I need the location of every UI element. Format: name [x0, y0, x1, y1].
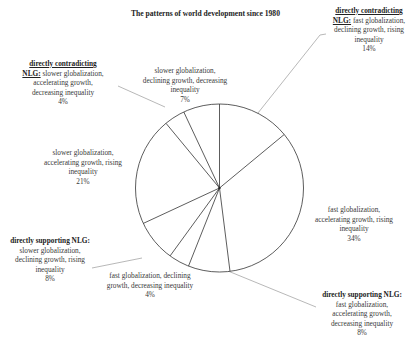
slice-percent: 8% [0, 274, 100, 284]
label-21-percent: slower globalization, accelerating growt… [28, 148, 138, 186]
slice-label-text: decreasing inequality [331, 319, 393, 328]
slice-label-text: inequality [339, 224, 368, 233]
label-8-percent-left: directly supporting NLG: slower globaliz… [0, 236, 100, 284]
annotation-heading: NLG: [22, 69, 40, 78]
slice-percent: 4% [10, 97, 116, 107]
label-14-percent: directly contradicting NLG: fast globali… [327, 6, 411, 54]
slice-label-text: accelerating growth, [332, 309, 392, 318]
slice-percent: 34% [298, 234, 410, 244]
slice-label-text: slower globalization, [42, 69, 103, 78]
slice-label-text: declining growth, rising [334, 25, 404, 34]
label-4-percent-bottom: fast globalization, declining growth, de… [92, 271, 208, 300]
leader-line-8-bottom [228, 271, 316, 307]
pie-center [218, 187, 220, 189]
slice-label-text: fast globalization, declining [109, 271, 190, 280]
slice-label-text: inequality [354, 35, 383, 44]
slice-label-text: fast globalization, [328, 205, 380, 214]
label-34-percent: fast globalization, accelerating growth,… [298, 205, 410, 243]
slice-label-text: inequality [68, 167, 97, 176]
slice-label-text: accelerating growth, rising [315, 215, 393, 224]
slice-label-text: declining growth, decreasing [143, 76, 228, 85]
label-7-percent: slower globalization, declining growth, … [130, 66, 240, 104]
slice-label-text: fast globalization, [353, 16, 405, 25]
slice-label-text: growth, decreasing inequality [107, 281, 194, 290]
leader-line-14 [254, 34, 326, 118]
slice-label-text: inequality [35, 265, 64, 274]
annotation-heading: directly contradicting [335, 6, 402, 15]
slice-percent: 7% [130, 95, 240, 105]
slice-percent: 8% [313, 328, 411, 338]
annotation-heading: NLG: [333, 16, 351, 25]
slice-label-text: accelerating growth, [33, 78, 93, 87]
annotation-heading: directly supporting NLG: [10, 236, 90, 245]
slice-label-text: decreasing inequality [32, 88, 94, 97]
label-4-percent-top: directly contradicting NLG: slower globa… [10, 59, 116, 107]
annotation-heading: directly supporting NLG: [322, 290, 402, 299]
slice-percent: 21% [28, 177, 138, 187]
slice-label-text: accelerating growth, rising [44, 158, 122, 167]
slice-percent: 4% [92, 290, 208, 300]
label-8-percent-bottom: directly supporting NLG: fast globalizat… [313, 290, 411, 338]
slice-percent: 14% [327, 44, 411, 54]
slice-label-text: slower globalization, [52, 148, 113, 157]
slice-label-text: inequality [170, 85, 199, 94]
slice-label-text: slower globalization, [154, 66, 215, 75]
slice-label-text: slower globalization, [19, 246, 80, 255]
slice-label-text: declining growth, rising [15, 255, 85, 264]
annotation-heading: directly contradicting [29, 59, 96, 68]
slice-label-text: fast globalization, [336, 300, 388, 309]
